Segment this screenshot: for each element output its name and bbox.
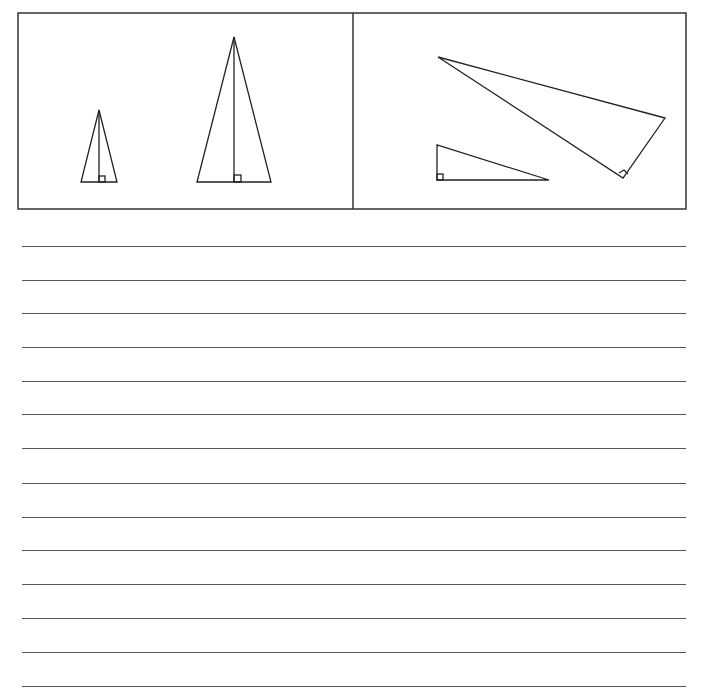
writing-line-4[interactable] [22,347,686,348]
writing-line-2[interactable] [22,280,686,281]
writing-line-1[interactable] [22,246,686,247]
small-right-triangle [437,145,549,180]
writing-line-9[interactable] [22,517,686,518]
large-isosceles-triangle [197,37,271,182]
writing-line-10[interactable] [22,550,686,551]
writing-line-13[interactable] [22,652,686,653]
triangle-figure [0,0,702,215]
writing-line-3[interactable] [22,313,686,314]
writing-line-6[interactable] [22,414,686,415]
small-isosceles-triangle [81,110,117,182]
right-angle-marker-icon [437,174,443,180]
writing-line-5[interactable] [22,381,686,382]
right-angle-marker-icon [619,170,628,174]
writing-line-8[interactable] [22,483,686,484]
figure-frame [18,13,686,209]
writing-line-12[interactable] [22,618,686,619]
writing-line-14[interactable] [22,686,686,687]
right-angle-marker-icon [234,175,241,182]
large-right-triangle [438,57,665,178]
writing-line-7[interactable] [22,448,686,449]
writing-line-11[interactable] [22,584,686,585]
right-angle-marker-icon [99,176,105,182]
